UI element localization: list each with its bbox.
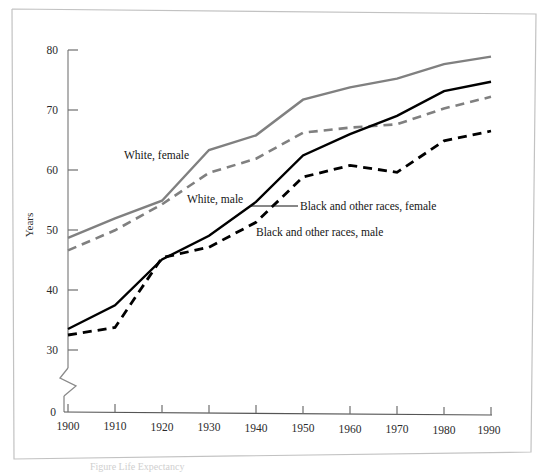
y-tick-label: 70	[47, 104, 59, 116]
series-label-black-other-female: Black and other races, female	[300, 200, 436, 213]
figure-frame: 80 70 60 50 40 30 0 Years 1900 1910	[0, 0, 541, 473]
x-axis-spine	[64, 412, 492, 415]
x-tick-label: 1920	[151, 421, 174, 433]
y-axis-ticks	[68, 50, 78, 350]
x-tick-label: 1930	[198, 421, 221, 433]
x-tick-label: 1990	[478, 424, 501, 436]
x-axis-tick-labels: 1900 1910 1920 1930 1940 1950 1960 1970 …	[57, 420, 501, 436]
y-tick-label: 60	[47, 164, 59, 176]
series-label-black-other-male: Black and other races, male	[256, 226, 383, 239]
y-axis-break-zigzag	[60, 368, 76, 396]
y-tick-label: 30	[47, 344, 59, 356]
series-label-white-male: White, male	[187, 193, 243, 206]
x-tick-label: 1980	[433, 424, 456, 436]
x-tick-label: 1940	[245, 422, 268, 434]
y-tick-label: 0	[50, 406, 56, 418]
line-chart: 80 70 60 50 40 30 0 Years 1900 1910	[0, 0, 541, 473]
x-tick-label: 1910	[104, 420, 127, 432]
y-tick-label: 50	[47, 224, 59, 236]
x-tick-label: 1900	[57, 420, 80, 432]
figure-caption: Figure Life Expectancy	[90, 461, 184, 472]
x-tick-label: 1970	[386, 423, 409, 435]
x-tick-label: 1960	[339, 423, 362, 435]
y-tick-label: 40	[47, 284, 59, 296]
y-axis-tick-labels: 80 70 60 50 40 30 0	[47, 44, 59, 418]
series-label-white-female: White, female	[124, 149, 189, 162]
x-tick-label: 1950	[292, 422, 315, 434]
y-axis-title: Years	[23, 213, 35, 238]
y-tick-label: 80	[47, 44, 59, 56]
